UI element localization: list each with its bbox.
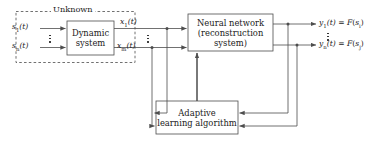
adaptive-learning-line2: learning algorithm <box>157 118 237 128</box>
neural-network-label: Neural network (reconstruction system) <box>188 14 273 51</box>
input-ellipsis-icon <box>49 33 51 44</box>
signal-ellipsis-icon <box>147 33 149 44</box>
input-label-sn: sn(t) <box>12 42 28 52</box>
dynamic-system-line2: system <box>72 38 109 48</box>
unknown-enclosure-label: Unknown <box>51 5 95 14</box>
neural-network-line1: Neural network <box>188 18 273 28</box>
neural-network-line2: (reconstruction system) <box>188 28 273 48</box>
input-label-s1: s1(t) <box>12 23 28 33</box>
signal-label-x1: x1(t) <box>120 18 137 28</box>
adaptive-learning-label: Adaptive learning algorithm <box>156 101 238 134</box>
adaptive-learning-line1: Adaptive <box>157 108 237 118</box>
dynamic-system-line1: Dynamic <box>72 28 109 38</box>
block-diagram: Unknown s1(t) sn(t) x1(t) xm(t) y1(t) = … <box>0 0 390 154</box>
output-label-y1: y1(t) = F(si) <box>319 19 364 29</box>
feedback-xm-path <box>152 48 155 127</box>
signal-label-xm: xm(t) <box>117 42 135 52</box>
output-ellipsis-icon <box>327 31 329 42</box>
dynamic-system-label: Dynamic system <box>67 21 114 55</box>
output-label-yn: yn(t) = F(sj) <box>319 40 364 50</box>
